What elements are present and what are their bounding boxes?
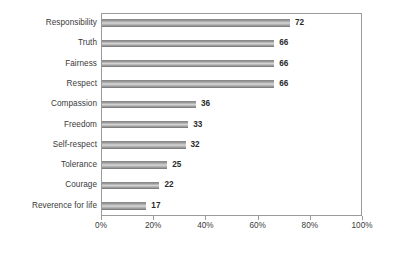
bar-row: Freedom33 (0, 115, 393, 135)
bar-container: 36 (102, 94, 363, 114)
bar (102, 141, 186, 149)
bar-value-label: 72 (295, 19, 304, 27)
bar-value-label: 66 (279, 60, 288, 68)
bar-row: Fairness66 (0, 54, 393, 74)
bar-container: 33 (102, 115, 363, 135)
x-tick-label: 60% (249, 222, 265, 230)
bar-value-label: 32 (191, 141, 200, 149)
category-label: Freedom (0, 121, 97, 129)
bar (102, 182, 159, 190)
bar-chart: Responsibility72Truth66Fairness66Respect… (0, 0, 393, 259)
bar (102, 202, 146, 210)
bar-value-label: 66 (279, 39, 288, 47)
bar-row: Compassion36 (0, 94, 393, 114)
bar (102, 161, 167, 169)
category-label: Tolerance (0, 161, 97, 169)
bar-row: Self-respect32 (0, 135, 393, 155)
bar (102, 121, 188, 129)
bar-row: Respect66 (0, 74, 393, 94)
bar-value-label: 22 (164, 181, 173, 189)
x-tick-label: 40% (197, 222, 213, 230)
category-label: Self-respect (0, 141, 97, 149)
bar-container: 72 (102, 13, 363, 33)
x-tick-label: 20% (145, 222, 161, 230)
x-tick-mark (258, 216, 259, 220)
x-tick-label: 80% (302, 222, 318, 230)
category-label: Truth (0, 39, 97, 47)
x-axis-tick-labels: 0%20%40%60%80%100% (101, 222, 362, 236)
bar (102, 80, 274, 88)
x-tick-mark (310, 216, 311, 220)
x-tick-mark (362, 216, 363, 220)
bar-container: 25 (102, 155, 363, 175)
bar-value-label: 36 (201, 100, 210, 108)
x-tick-mark (153, 216, 154, 220)
category-label: Fairness (0, 60, 97, 68)
bar-value-label: 25 (172, 161, 181, 169)
bar-container: 17 (102, 196, 363, 216)
category-label: Reverence for life (0, 202, 97, 210)
bar-row: Reverence for life17 (0, 196, 393, 216)
bar-container: 66 (102, 33, 363, 53)
bar-row: Responsibility72 (0, 13, 393, 33)
x-tick-label: 0% (95, 222, 107, 230)
x-axis-tick-marks (101, 216, 362, 221)
x-tick-label: 100% (352, 222, 373, 230)
bar-container: 66 (102, 54, 363, 74)
bar-container: 32 (102, 135, 363, 155)
bar-value-label: 66 (279, 80, 288, 88)
bar-row: Tolerance25 (0, 155, 393, 175)
bar (102, 60, 274, 68)
bar-row: Truth66 (0, 33, 393, 53)
category-label: Respect (0, 80, 97, 88)
bar-container: 22 (102, 175, 363, 195)
bar-value-label: 17 (151, 202, 160, 210)
bar-rows: Responsibility72Truth66Fairness66Respect… (0, 13, 393, 216)
category-label: Courage (0, 181, 97, 189)
bar-row: Courage22 (0, 175, 393, 195)
bar (102, 19, 290, 27)
category-label: Responsibility (0, 19, 97, 27)
x-tick-mark (101, 216, 102, 220)
bar-container: 66 (102, 74, 363, 94)
bar-value-label: 33 (193, 121, 202, 129)
bar (102, 101, 196, 109)
x-tick-mark (205, 216, 206, 220)
bar (102, 40, 274, 48)
category-label: Compassion (0, 100, 97, 108)
